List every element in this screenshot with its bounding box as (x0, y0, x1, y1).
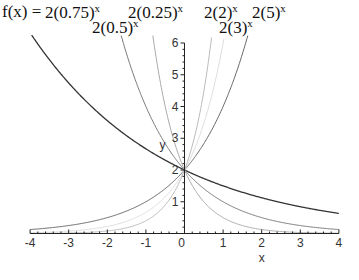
y-tick-label: 6 (172, 36, 179, 50)
x-tick-label: -2 (102, 236, 113, 250)
y-axis-label: y (160, 138, 166, 152)
x-tick-label: 0 (178, 236, 185, 250)
x-tick-label: -3 (63, 236, 74, 250)
y-tick-label: 1 (172, 195, 179, 209)
curve-2-0-75--x (32, 35, 339, 213)
x-tick-label: 2 (258, 236, 265, 250)
curve-2-0-25--x (153, 36, 339, 234)
x-tick-label: 1 (220, 236, 227, 250)
x-tick-label: -4 (25, 236, 36, 250)
y-tick-label: 5 (172, 68, 179, 82)
curve-2-0-5--x (121, 36, 339, 230)
y-tick-label: 3 (172, 131, 179, 145)
curve-2-2--x (30, 36, 248, 230)
x-tick-label: 3 (297, 236, 304, 250)
y-tick-label: 2 (172, 163, 179, 177)
x-axis-label: x (259, 251, 265, 265)
x-tick-label: -1 (141, 236, 152, 250)
exponential-chart: -4-3-2-101234123456xy (0, 0, 359, 280)
x-tick-label: 4 (336, 236, 343, 250)
y-tick-label: 4 (172, 100, 179, 114)
